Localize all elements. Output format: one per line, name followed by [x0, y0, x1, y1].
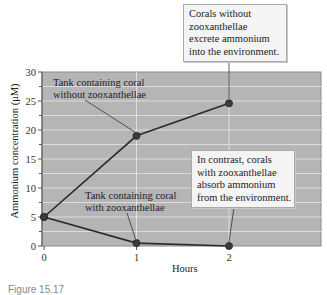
y-tick-label: 25 — [26, 96, 37, 107]
callout-excrete-line: zooxanthellae — [189, 21, 281, 34]
callout-excrete-line: excrete ammonium — [189, 33, 281, 46]
y-tick-label: 5 — [31, 212, 36, 223]
series-label-line: with zooxanthellae — [85, 202, 176, 214]
data-point — [133, 240, 140, 247]
series-label-line: Tank containing coral — [53, 77, 146, 89]
x-tick-label: 1 — [134, 252, 139, 263]
callout-absorb: In contrast, corals with zooxanthellae a… — [191, 150, 295, 208]
callout-absorb-line: absorb ammonium — [197, 179, 289, 192]
x-axis-label: Hours — [172, 263, 198, 274]
callout-excrete-line: into the environment. — [189, 46, 281, 59]
callout-excrete: Corals without zooxanthellae excrete amm… — [183, 4, 287, 62]
y-tick-label: 0 — [31, 241, 36, 252]
y-tick-label: 30 — [26, 67, 37, 78]
callout-absorb-line: In contrast, corals — [197, 154, 289, 167]
x-tick-label: 2 — [226, 252, 231, 263]
figure-caption: Figure 15.17 — [8, 284, 64, 295]
y-tick-label: 10 — [26, 183, 37, 194]
callout-excrete-line: Corals without — [189, 8, 281, 21]
data-point — [225, 242, 232, 249]
x-tick-label: 0 — [41, 252, 46, 263]
y-axis-label: Ammonium concentration (μM) — [9, 99, 20, 219]
y-tick-label: 20 — [26, 125, 37, 136]
data-point — [133, 132, 140, 139]
series-label-line: Tank containing coral — [85, 190, 176, 202]
data-point — [40, 213, 47, 220]
callout-absorb-line: with zooxanthellae — [197, 167, 289, 180]
data-point — [225, 100, 232, 107]
y-tick-label: 15 — [26, 154, 37, 165]
series-label-without: Tank containing coral without zooxanthel… — [53, 77, 146, 101]
callout-absorb-line: from the environment. — [197, 192, 289, 205]
series-label-with: Tank containing coral with zooxanthellae — [85, 190, 176, 214]
series-label-line: without zooxanthellae — [53, 89, 146, 101]
